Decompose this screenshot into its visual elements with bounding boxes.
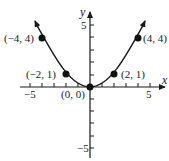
y-axis-label: y <box>79 5 86 19</box>
point-label-origin: (0, 0) <box>61 88 85 101</box>
point-label-neg2-1: (−2, 1) <box>26 68 56 81</box>
point-label-neg4-4: (−4, 4) <box>4 32 34 45</box>
point-2-1 <box>111 71 118 78</box>
parabola-graph: x y −5 5 5 −5 (−4, 4) (−2, 1) (0, 0) (2,… <box>0 0 169 161</box>
point-label-2-1: (2, 1) <box>121 68 145 81</box>
x-axis-label: x <box>161 73 168 87</box>
point-origin <box>87 84 94 91</box>
point-neg2-1 <box>63 71 70 78</box>
x-tick-label-5: 5 <box>146 88 152 100</box>
x-tick-label-neg5: −5 <box>24 88 36 100</box>
left-curve-arrow <box>35 21 38 28</box>
right-curve-arrow <box>142 21 145 28</box>
point-4-4 <box>135 35 142 42</box>
y-tick-label-5: 5 <box>81 19 87 31</box>
point-neg4-4 <box>39 35 46 42</box>
point-label-4-4: (4, 4) <box>143 32 167 45</box>
y-tick-label-neg5: −5 <box>77 142 89 154</box>
